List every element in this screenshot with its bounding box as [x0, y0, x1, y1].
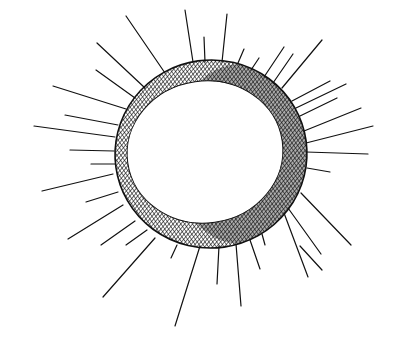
- hatched-ring: [0, 0, 401, 348]
- sun-drawing-canvas: [0, 0, 401, 348]
